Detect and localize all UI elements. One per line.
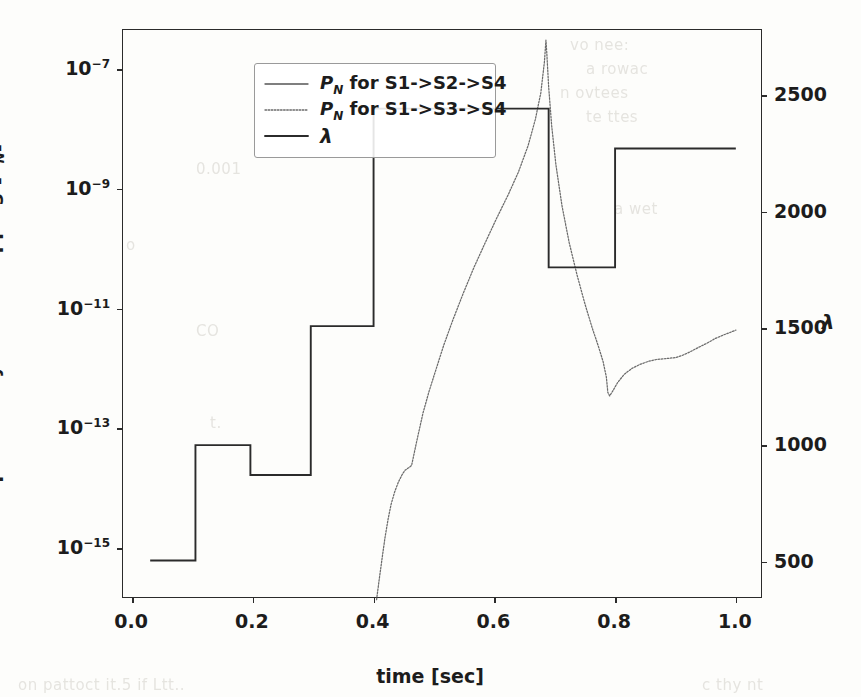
x-axis-tick xyxy=(615,597,617,603)
x-axis-tick-label: 0.6 xyxy=(476,610,510,632)
y-tick-mantissa: 10 xyxy=(57,416,83,438)
y-tick-exponent: −13 xyxy=(83,416,110,430)
y-axis-left-tick-label: 10−7 xyxy=(0,57,110,79)
x-axis-tick xyxy=(132,597,134,603)
x-axis-tick-label: 0.4 xyxy=(356,610,390,632)
y-axis-left-tick-label: 10−13 xyxy=(0,416,110,438)
legend-label-subscript: N xyxy=(333,82,343,96)
x-axis-title: time [sec] xyxy=(376,665,484,687)
y-axis-left-title-subscript: N xyxy=(0,152,7,163)
y-axis-left-tick-label: 10−9 xyxy=(0,177,110,199)
x-axis-tick xyxy=(374,597,376,603)
x-axis-tick xyxy=(494,597,496,603)
legend-item-label: λ xyxy=(320,124,333,148)
legend-label-symbol: P xyxy=(320,98,333,119)
y-axis-left-tick xyxy=(117,189,123,191)
plot-area: PN for S1->S2->S4PN for S1->S3->S4λ xyxy=(122,29,762,598)
scan-ghost-text: c thy nt xyxy=(702,676,763,694)
x-axis-tick-label: 0.8 xyxy=(597,610,631,632)
y-tick-mantissa: 10 xyxy=(57,297,83,319)
chart-figure: vo nee:a rowacn ovteeste ttes0.001a wetC… xyxy=(0,0,861,697)
legend-swatch-icon xyxy=(264,103,309,117)
y-axis-left-tick xyxy=(117,548,123,550)
series-line-lambda xyxy=(150,109,736,561)
y-axis-right-tick-label: 2000 xyxy=(774,200,827,222)
y-axis-left-tick-label: 10−15 xyxy=(0,536,110,558)
y-axis-right-tick-label: 1500 xyxy=(774,316,827,338)
y-axis-right-tick-label: 1000 xyxy=(774,433,827,455)
y-axis-right-tick xyxy=(761,562,767,564)
legend-line-swatch xyxy=(264,129,309,143)
y-axis-left-title-suffix: ] xyxy=(0,144,3,153)
y-axis-right-tick-label: 500 xyxy=(774,550,814,572)
x-axis-tick xyxy=(253,597,255,603)
y-tick-exponent: −9 xyxy=(92,177,110,191)
x-axis-tick-label: 0.0 xyxy=(114,610,148,632)
x-axis-tick-label: 1.0 xyxy=(718,610,752,632)
y-axis-right-tick xyxy=(761,95,767,97)
legend-line-swatch xyxy=(264,77,309,91)
x-axis-tick-label: 0.2 xyxy=(235,610,269,632)
y-axis-left-title-symbol: P xyxy=(0,163,3,177)
y-tick-mantissa: 10 xyxy=(65,57,91,79)
y-axis-left-tick xyxy=(117,309,123,311)
y-tick-exponent: −7 xyxy=(92,57,110,71)
y-axis-left-tick xyxy=(117,428,123,430)
legend-label-subscript: N xyxy=(333,108,343,122)
legend[interactable]: PN for S1->S2->S4PN for S1->S3->S4λ xyxy=(254,63,496,158)
y-axis-right-tick-label: 2500 xyxy=(774,83,827,105)
legend-item[interactable]: λ xyxy=(264,123,486,149)
y-tick-mantissa: 10 xyxy=(65,177,91,199)
legend-item[interactable]: PN for S1->S3->S4 xyxy=(264,97,486,123)
y-tick-exponent: −15 xyxy=(83,536,110,550)
legend-label-symbol: λ xyxy=(320,124,333,148)
legend-label-symbol: P xyxy=(320,72,333,93)
legend-line-swatch xyxy=(264,103,309,117)
legend-swatch-icon xyxy=(264,77,309,91)
y-axis-left-tick-label: 10−11 xyxy=(0,296,110,318)
y-tick-exponent: −11 xyxy=(83,296,110,310)
legend-label-text: for S1->S3->S4 xyxy=(343,98,506,119)
y-tick-mantissa: 10 xyxy=(57,536,83,558)
legend-label-text: for S1->S2->S4 xyxy=(343,72,506,93)
legend-item-label: PN for S1->S2->S4 xyxy=(320,72,506,97)
y-axis-right-tick xyxy=(761,445,767,447)
y-axis-left-tick xyxy=(117,69,123,71)
x-axis-tick xyxy=(736,597,738,603)
scan-ghost-text: on pattoct it.5 if Ltt.. xyxy=(18,676,185,694)
legend-item-label: PN for S1->S3->S4 xyxy=(320,98,506,123)
legend-swatch-icon xyxy=(264,129,309,143)
y-axis-right-tick xyxy=(761,212,767,214)
y-axis-right-tick xyxy=(761,328,767,330)
legend-item[interactable]: PN for S1->S2->S4 xyxy=(264,71,486,97)
